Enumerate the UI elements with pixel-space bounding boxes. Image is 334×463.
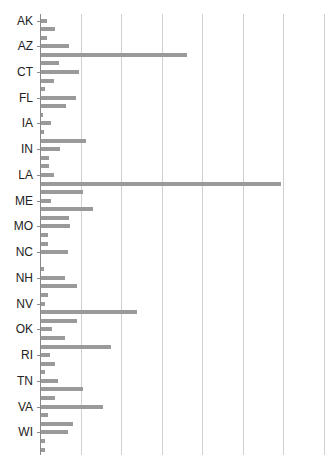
bar-nh [41, 276, 65, 280]
bar-hi [41, 113, 43, 117]
bar-ia [41, 121, 51, 125]
category-label: CT [17, 66, 33, 78]
bar-ar [41, 36, 47, 40]
axis-tick [37, 201, 40, 202]
gridline [202, 14, 203, 455]
axis-tick [37, 98, 40, 99]
category-label: OK [16, 323, 33, 335]
bar-nv [41, 302, 45, 306]
category-label: LA [18, 169, 33, 181]
category-label: NC [16, 246, 33, 258]
category-label: FL [19, 92, 33, 104]
bar-ky [41, 164, 49, 168]
category-label: AK [17, 15, 33, 27]
bar-wy [41, 448, 45, 452]
bar-ri [41, 353, 50, 357]
horizontal-bar-chart: AKAZCTFLIAINLAMEMONCNHNVOKRITNVAWI [0, 0, 334, 463]
bar-mt [41, 242, 48, 246]
axis-tick [37, 226, 40, 227]
category-label: NV [16, 298, 33, 310]
category-label: AZ [18, 40, 33, 52]
bar-id [41, 130, 44, 134]
category-label: VA [18, 401, 33, 413]
bar-or [41, 336, 65, 340]
axis-tick [37, 304, 40, 305]
bar-wv [41, 439, 45, 443]
bar-dc [41, 79, 54, 83]
bar-ga [41, 104, 66, 108]
bar-ma [41, 182, 281, 186]
axis-tick [37, 175, 40, 176]
bar-mo [41, 224, 70, 228]
bar-ms [41, 233, 48, 237]
bar-tn [41, 379, 58, 383]
bar-la [41, 173, 54, 177]
axis-tick [37, 252, 40, 253]
bar-sc [41, 362, 55, 366]
gridline [162, 14, 163, 455]
bar-wi [41, 430, 68, 434]
bar-me [41, 199, 51, 203]
bar-wa [41, 422, 73, 426]
gridline [324, 14, 325, 455]
axis-tick [37, 149, 40, 150]
bar-il [41, 139, 86, 143]
category-label: WI [18, 426, 33, 438]
axis-tick [37, 278, 40, 279]
bar-sd [41, 370, 45, 374]
bar-vt [41, 413, 48, 417]
bar-al [41, 27, 55, 31]
axis-tick [37, 355, 40, 356]
bar-md [41, 190, 83, 194]
bar-mi [41, 207, 93, 211]
bar-ks [41, 156, 49, 160]
bar-ne [41, 267, 44, 271]
bar-in [41, 147, 60, 151]
axis-tick [37, 381, 40, 382]
bar-ok [41, 327, 52, 331]
bar-de [41, 87, 45, 91]
bar-mn [41, 216, 69, 220]
axis-tick [37, 72, 40, 73]
category-label: IA [22, 117, 33, 129]
bar-nm [41, 293, 48, 297]
bar-ct [41, 70, 79, 74]
bar-oh [41, 319, 77, 323]
bar-tx [41, 387, 83, 391]
bar-va [41, 405, 103, 409]
bar-co [41, 61, 59, 65]
category-label: NH [16, 272, 33, 284]
category-label: IN [21, 143, 33, 155]
axis-tick [37, 21, 40, 22]
category-label: ME [15, 195, 33, 207]
bar-fl [41, 96, 76, 100]
category-label: MO [14, 220, 33, 232]
bar-ak [41, 19, 47, 23]
gridline [283, 14, 284, 455]
axis-tick [37, 46, 40, 47]
bar-az [41, 44, 69, 48]
category-label: RI [21, 349, 33, 361]
gridline [243, 14, 244, 455]
axis-tick [37, 432, 40, 433]
bar-pa [41, 345, 111, 349]
bar-nc [41, 250, 68, 254]
axis-tick [37, 407, 40, 408]
axis-tick [37, 329, 40, 330]
category-label: TN [17, 375, 33, 387]
bar-ut [41, 396, 55, 400]
axis-tick [37, 123, 40, 124]
bar-nj [41, 284, 77, 288]
bar-ca [41, 53, 187, 57]
gridline [121, 14, 122, 455]
bar-ny [41, 310, 137, 314]
